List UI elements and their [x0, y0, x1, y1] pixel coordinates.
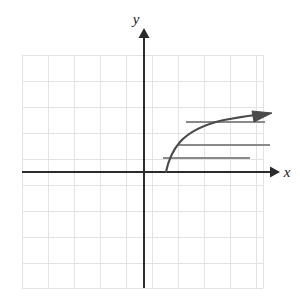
y-axis-label: y: [131, 11, 140, 27]
graph-figure: y x: [0, 0, 300, 304]
x-axis-label: x: [283, 164, 291, 180]
figure-background: [0, 0, 300, 304]
